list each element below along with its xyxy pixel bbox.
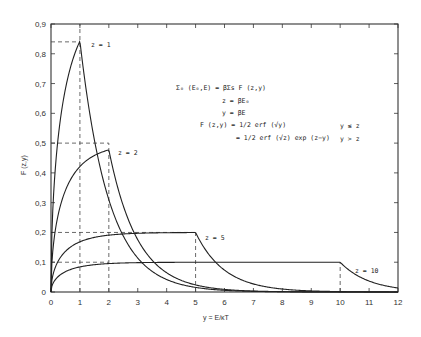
curve-label-z5: z = 5 (205, 234, 225, 242)
x-tick-label: 0 (49, 298, 54, 307)
x-tick-label: 2 (107, 298, 112, 307)
y-tick-label: 0,8 (35, 50, 47, 59)
equation-sigma: Σ₀ (E₀,E) = βΣs F (z,y) (176, 84, 266, 92)
x-tick-label: 12 (394, 298, 403, 307)
y-tick-label: 0,6 (35, 109, 47, 118)
condition-y-le-z: y ≤ z (340, 122, 360, 130)
curve-label-z1: z = 1 (91, 41, 111, 49)
x-tick-label: 11 (365, 298, 374, 307)
equation-z: z = βE₀ (222, 97, 249, 105)
curve-z-1 (51, 42, 398, 292)
y-axis-title: F (z,y) (20, 155, 28, 175)
y-tick-label: 0,9 (35, 20, 47, 29)
y-tick-label: 0 (42, 288, 47, 297)
plot-frame (51, 24, 398, 292)
condition-y-gt-z: y > z (340, 135, 360, 143)
x-tick-label: 6 (222, 298, 227, 307)
curve-label-z10: z = 10 (355, 267, 379, 275)
dashed-guides (51, 24, 340, 292)
equation-y: y = βE (222, 109, 246, 117)
x-tick-label: 4 (164, 298, 169, 307)
x-tick-label: 5 (193, 298, 198, 307)
y-tick-label: 0,2 (35, 228, 47, 237)
y-tick-label: 0,7 (35, 80, 47, 89)
y-tick-label: 0,1 (35, 258, 47, 267)
chart: 012345678910111200,10,20,30,40,50,60,70,… (0, 0, 421, 337)
y-tick-label: 0,4 (35, 169, 47, 178)
curves (51, 42, 398, 292)
equation-F-high: = 1/2 erf (√z) exp (z−y) (236, 134, 330, 142)
plot-border (51, 24, 398, 292)
x-tick-label: 9 (309, 298, 314, 307)
x-tick-label: 1 (78, 298, 83, 307)
y-tick-label: 0,5 (35, 139, 47, 148)
equation-F-low: F (z,y) = 1/2 erf (√y) (200, 121, 286, 129)
y-tick-label: 0,3 (35, 199, 47, 208)
x-tick-label: 10 (336, 298, 345, 307)
axis-ticks: 012345678910111200,10,20,30,40,50,60,70,… (35, 20, 403, 307)
curve-z-10 (51, 262, 398, 292)
x-tick-label: 7 (251, 298, 256, 307)
x-axis-title: y = E/κT (203, 314, 230, 322)
x-tick-label: 8 (280, 298, 285, 307)
curve-label-z2: z = 2 (118, 149, 138, 157)
x-tick-label: 3 (136, 298, 141, 307)
